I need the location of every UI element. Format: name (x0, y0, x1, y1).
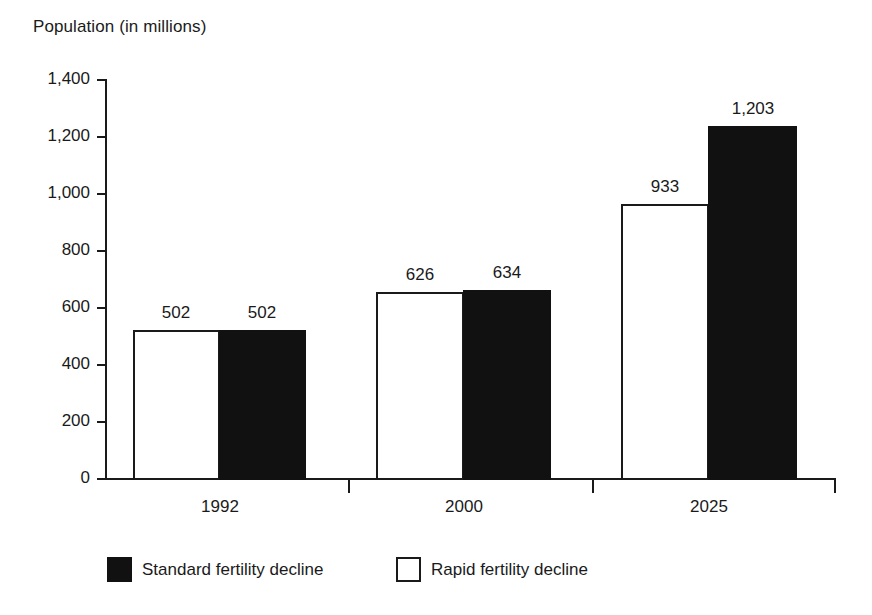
y-tick-label-1200: 1,200 (18, 126, 90, 146)
y-tick-0 (97, 478, 106, 480)
y-tick-label-800: 800 (18, 240, 90, 260)
x-axis-label-2025: 2025 (649, 497, 769, 517)
y-tick-400 (97, 364, 106, 366)
chart-legend: Standard fertility decline Rapid fertili… (0, 552, 872, 597)
y-tick-1200 (97, 136, 106, 138)
bar-2000-rapid (376, 292, 464, 480)
y-tick-label-0: 0 (18, 468, 90, 488)
y-tick-label-600: 600 (18, 297, 90, 317)
y-axis-line (105, 79, 107, 480)
bar-chart: Population (in millions) 1,400 1,200 1,0… (0, 0, 872, 615)
bar-1992-standard (219, 330, 306, 480)
bar-2025-rapid (621, 204, 709, 480)
legend-item-standard: Standard fertility decline (107, 557, 323, 582)
legend-label-rapid: Rapid fertility decline (431, 560, 588, 580)
x-axis-label-2000: 2000 (404, 497, 524, 517)
legend-swatch-standard-icon (107, 557, 132, 582)
y-tick-label-1000: 1,000 (18, 183, 90, 203)
y-tick-200 (97, 421, 106, 423)
x-axis-label-1992: 1992 (160, 497, 280, 517)
y-tick-600 (97, 307, 106, 309)
bar-label-1992-standard: 502 (207, 303, 317, 323)
legend-swatch-rapid-icon (396, 557, 421, 582)
legend-label-standard: Standard fertility decline (142, 560, 323, 580)
y-tick-label-1400: 1,400 (18, 69, 90, 89)
plot-area: 1,400 1,200 1,000 800 600 400 200 0 502 … (0, 0, 872, 530)
y-tick-1400 (97, 79, 106, 81)
bar-2000-standard (463, 290, 551, 480)
bar-label-2025-rapid: 933 (610, 177, 720, 197)
y-tick-label-400: 400 (18, 354, 90, 374)
legend-item-rapid: Rapid fertility decline (396, 557, 588, 582)
y-tick-1000 (97, 193, 106, 195)
bar-label-2025-standard: 1,203 (698, 99, 808, 119)
x-axis-end-tick (834, 479, 836, 493)
bar-2025-standard (708, 126, 797, 480)
y-tick-label-200: 200 (18, 411, 90, 431)
y-tick-800 (97, 250, 106, 252)
bar-label-2000-standard: 634 (452, 263, 562, 283)
bar-1992-rapid (133, 330, 220, 480)
x-separator-tick-1 (348, 479, 350, 493)
x-separator-tick-2 (592, 479, 594, 493)
